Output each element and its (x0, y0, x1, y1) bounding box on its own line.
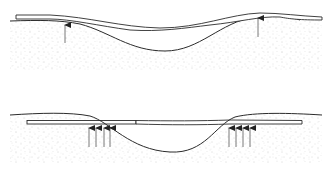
bottom-plank (27, 121, 136, 125)
diagram: Beam on elastic foundation over a ground… (0, 0, 330, 176)
top-panel (10, 13, 322, 70)
diagram-canvas (0, 0, 330, 176)
bottom-panel (10, 113, 322, 163)
bottom-plank-span (136, 120, 302, 125)
